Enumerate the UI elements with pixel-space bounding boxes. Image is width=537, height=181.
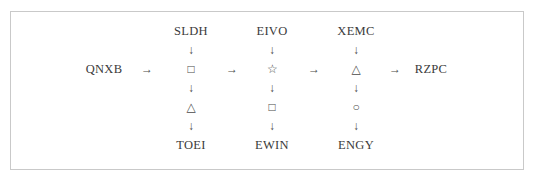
screenshot-canvas: QNXB → □ → ☆ → △ → RZPC SLDH ↓ ↓ △ ↓ TOE…: [0, 0, 537, 181]
down-arrow-icon-b3: ↓: [269, 120, 275, 132]
down-arrow-icon-a2: ↓: [188, 82, 194, 94]
symbol-col-a-middle: □: [187, 63, 194, 75]
down-arrow-icon-b2: ↓: [269, 82, 275, 94]
down-arrow-icon-c2: ↓: [353, 82, 359, 94]
symbol-col-c-lower: ○: [352, 101, 359, 113]
right-arrow-icon-4: →: [389, 63, 401, 75]
node-source: QNXB: [86, 63, 123, 76]
down-arrow-icon-b1: ↓: [269, 44, 275, 56]
node-target: RZPC: [415, 63, 447, 76]
node-col-c-top: XEMC: [337, 25, 374, 38]
node-col-b-top: EIVO: [256, 25, 287, 38]
down-arrow-icon-a3: ↓: [188, 120, 194, 132]
node-col-c-bottom: ENGY: [338, 139, 374, 152]
node-col-b-bottom: EWIN: [255, 139, 289, 152]
down-arrow-icon-a1: ↓: [188, 44, 194, 56]
node-col-a-bottom: TOEI: [176, 139, 205, 152]
symbol-col-b-lower: □: [268, 101, 275, 113]
right-arrow-icon-2: →: [226, 63, 238, 75]
flow-diagram: QNXB → □ → ☆ → △ → RZPC SLDH ↓ ↓ △ ↓ TOE…: [11, 12, 525, 171]
symbol-col-a-lower: △: [186, 101, 195, 113]
down-arrow-icon-c3: ↓: [353, 120, 359, 132]
right-arrow-icon-1: →: [141, 63, 153, 75]
right-arrow-icon-3: →: [308, 63, 320, 75]
down-arrow-icon-c1: ↓: [353, 44, 359, 56]
diagram-frame: QNXB → □ → ☆ → △ → RZPC SLDH ↓ ↓ △ ↓ TOE…: [10, 11, 524, 170]
symbol-col-b-middle: ☆: [267, 63, 278, 75]
node-col-a-top: SLDH: [174, 25, 208, 38]
symbol-col-c-middle: △: [351, 63, 360, 75]
